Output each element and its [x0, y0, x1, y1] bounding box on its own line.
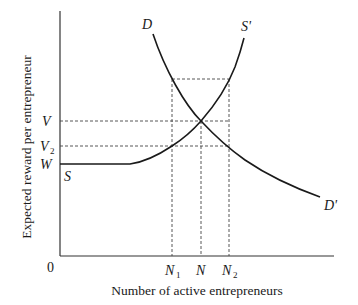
diagram-canvas: D D' S S' V V 2 W N 1 N N 2 0 Number of …: [0, 0, 358, 305]
svg-text:2: 2: [233, 270, 238, 280]
x-axis-title: Number of active entrepreneurs: [111, 283, 282, 298]
svg-text:2: 2: [50, 146, 55, 156]
y-axis-title: Expected reward per entrepreneur: [19, 55, 34, 239]
demand-start-label: D: [141, 17, 152, 32]
supply-start-label: S: [64, 169, 71, 184]
supply-curve: [60, 38, 244, 164]
x-tick-n1: N 1: [164, 263, 181, 280]
svg-text:N: N: [221, 263, 232, 278]
supply-end-label: S': [241, 19, 252, 34]
demand-curve: [153, 34, 320, 197]
x-tick-n: N: [195, 263, 206, 278]
demand-end-label: D': [323, 198, 338, 213]
svg-text:N: N: [164, 263, 175, 278]
y-tick-v2: V 2: [40, 139, 55, 156]
y-tick-v: V: [42, 114, 52, 129]
guide-lines: [60, 79, 229, 256]
origin-label: 0: [47, 260, 54, 275]
svg-text:1: 1: [176, 270, 181, 280]
svg-text:V: V: [40, 139, 50, 154]
y-tick-w: W: [40, 157, 53, 172]
x-tick-n2: N 2: [221, 263, 238, 280]
